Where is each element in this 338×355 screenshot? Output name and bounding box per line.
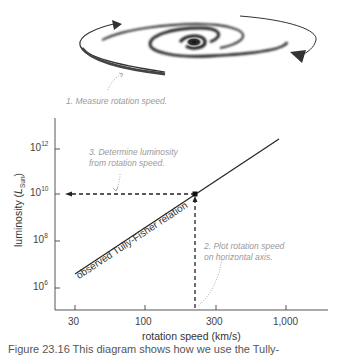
spiral-galaxy-illustration <box>80 16 316 74</box>
rotation-arrow-head-left <box>112 20 122 30</box>
y-tick-1e10: 1010 <box>30 187 48 198</box>
rotation-arrow-head-right <box>290 50 306 63</box>
y-tick-1e6: 106 <box>33 281 48 292</box>
x-tick-1000: 1,000 <box>273 316 298 327</box>
x-axis-label: rotation speed (km/s) <box>142 330 241 342</box>
y-axis-label: luminosity (LSun) <box>12 173 26 247</box>
y-tick-1e12: 1012 <box>30 142 48 153</box>
step3-note-line2: from rotation speed. <box>89 158 165 169</box>
dashed-horizontal-arrow-head <box>65 192 72 197</box>
figure-caption: Figure 23.16 This diagram shows how we u… <box>8 343 279 355</box>
step2-pointer <box>198 258 222 306</box>
step1-pointer <box>108 74 122 90</box>
highlighted-point <box>193 192 198 197</box>
step3-note-line1: 3. Determine luminosity <box>89 147 178 158</box>
x-tick-100: 100 <box>135 316 152 327</box>
y-tick-1e8: 108 <box>33 234 48 245</box>
galaxy-arm-inner <box>150 28 287 56</box>
x-tick-30: 30 <box>68 316 79 327</box>
step3-pointer <box>116 174 120 191</box>
x-tick-300: 300 <box>206 316 223 327</box>
rotation-arc-right <box>240 16 316 56</box>
step2-note-line2: on horizontal axis. <box>204 252 273 263</box>
step1-note: 1. Measure rotation speed. <box>66 96 167 107</box>
galaxy-core <box>185 37 203 47</box>
galaxy-arm-top <box>102 24 243 48</box>
step2-note-line1: 2. Plot rotation speed <box>204 241 284 252</box>
dashed-vertical-arrow-head <box>193 196 198 202</box>
